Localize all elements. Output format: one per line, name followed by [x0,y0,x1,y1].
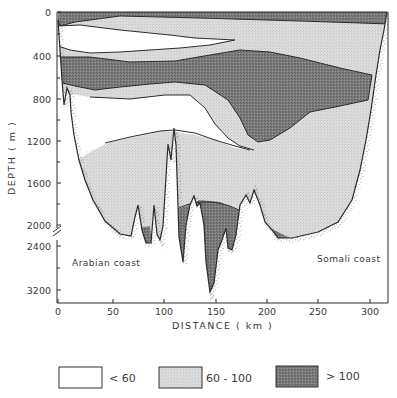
x-tick-label: 50 [107,306,119,317]
legend-label-60-100: 60 - 100 [206,372,252,385]
x-tick-label: 300 [361,306,379,317]
y-tick-label: 800 [33,94,51,105]
legend-label-lt60: < 60 [109,372,136,385]
y-tick-label: 400 [33,51,51,62]
x-axis-title: DISTANCE ( km ) [172,320,273,331]
y-axis-title: DEPTH ( m ) [6,121,17,195]
annotation-arabian-coast: Arabian coast [72,258,140,268]
y-tick-label: 0 [45,7,51,18]
y-tick-label: 1200 [27,136,51,147]
x-tick-label: 100 [155,306,173,317]
annotation-somali-coast: Somali coast [317,254,381,264]
legend-swatch-lt60 [59,367,102,388]
legend-swatch-60-100 [159,367,202,388]
depth-section-chart: 0 400 800 1200 1600 2000 2400 3200 DEPTH… [0,0,397,398]
x-tick-label: 0 [55,306,61,317]
y-tick-label: 3200 [27,285,51,296]
legend-swatch-gt100 [276,366,318,387]
y-axis: 0 400 800 1200 1600 2000 2400 3200 DEPTH… [6,7,61,303]
x-tick-label: 250 [309,306,327,317]
y-tick-label: 1600 [27,178,51,189]
legend-label-gt100: > 100 [326,370,360,383]
y-tick-label: 2400 [27,241,51,252]
x-tick-label: 200 [258,306,276,317]
y-tick-label: 2000 [27,220,51,231]
x-tick-label: 150 [207,306,225,317]
legend: < 60 60 - 100 > 100 [59,366,360,388]
x-axis: 0 50 100 150 200 250 300 DISTANCE ( km ) [55,299,388,331]
